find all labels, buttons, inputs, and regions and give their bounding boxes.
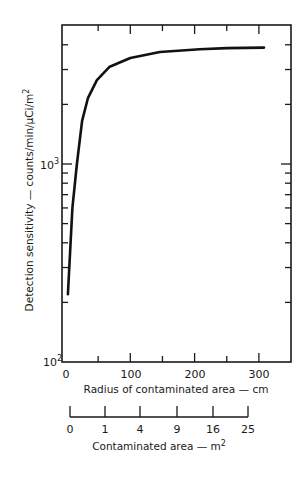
area-axis-title: Contaminated area — m2 (92, 439, 226, 452)
x-tick-label-100: 100 (121, 368, 142, 381)
area-tick-label-0: 0 (67, 423, 74, 436)
area-tick-label-4: 4 (137, 423, 144, 436)
x-tick-label-200: 200 (185, 368, 206, 381)
area-axis: 0 1 4 9 16 25 Contaminated area — m2 (67, 406, 256, 452)
y-tick-label-1000: 103 (40, 157, 59, 172)
x-tick-label-0: 0 (63, 368, 70, 381)
area-tick-label-25: 25 (241, 423, 255, 436)
plot-frame (62, 25, 291, 362)
axis-ticks (62, 25, 291, 362)
data-curve (68, 48, 264, 295)
area-tick-label-1: 1 (102, 423, 109, 436)
x-tick-label-300: 300 (249, 368, 270, 381)
y-tick-label-100: 102 (43, 354, 62, 369)
x-axis-title: Radius of contaminated area — cm (84, 383, 269, 395)
area-tick-label-16: 16 (206, 423, 220, 436)
y-axis-title: Detection sensitivity — counts/min/μCi/m… (22, 89, 35, 312)
area-tick-label-9: 9 (174, 423, 181, 436)
chart-canvas: 102 103 0 100 200 300 Radius of contamin… (0, 0, 307, 478)
